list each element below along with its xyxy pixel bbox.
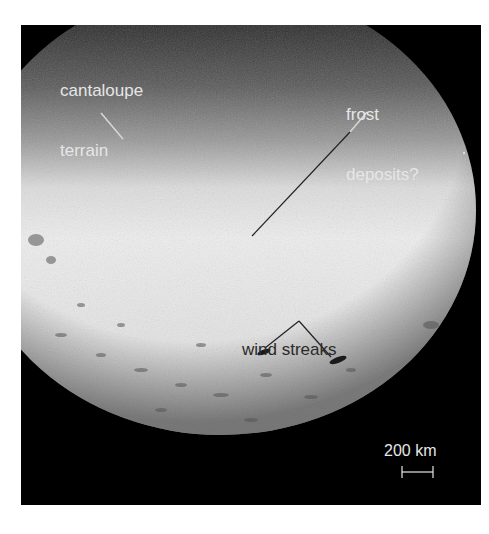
photo-frame: cantaloupe terrain frost deposits? wind … [21, 25, 481, 505]
annotation-cantaloupe-line1: cantaloupe [60, 81, 143, 101]
scale-bar-label: 200 km [384, 442, 436, 460]
annotation-cantaloupe-terrain: cantaloupe terrain [60, 41, 143, 201]
annotation-wind-streaks: wind streaks [242, 300, 336, 400]
annotation-cantaloupe-line2: terrain [60, 141, 143, 161]
annotation-frost-deposits: frost deposits? [346, 65, 419, 225]
annotation-frost-line2: deposits? [346, 165, 419, 185]
annotation-wind-line1: wind streaks [242, 340, 336, 360]
annotation-frost-line1: frost [346, 105, 419, 125]
